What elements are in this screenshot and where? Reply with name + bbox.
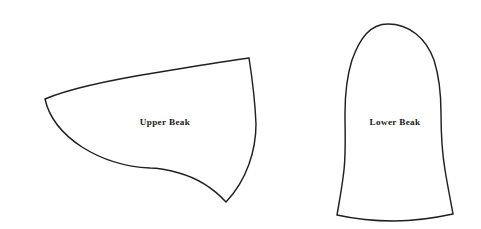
beak-template-diagram: Upper Beak Lower Beak xyxy=(0,0,481,229)
beak-diagram-canvas: Upper Beak Lower Beak xyxy=(0,0,481,229)
upper-beak-label: Upper Beak xyxy=(140,117,191,127)
lower-beak-label: Lower Beak xyxy=(369,117,421,127)
